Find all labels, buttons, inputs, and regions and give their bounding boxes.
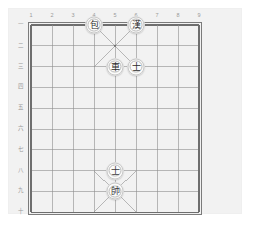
file-label-9: 9: [197, 13, 200, 19]
rank-label-6: 六: [18, 126, 24, 132]
piece-ju[interactable]: 車: [107, 58, 124, 75]
rank-label-7: 七: [18, 147, 24, 153]
file-label-1: 1: [29, 13, 32, 19]
file-label-5: 5: [113, 13, 116, 19]
piece-bao[interactable]: 包: [86, 17, 103, 34]
board-panel: 123456789一二三四五六七八九十 包漢車士士帥: [8, 8, 242, 214]
rank-label-2: 二: [18, 43, 24, 49]
rank-label-4: 四: [18, 85, 24, 91]
board-surface[interactable]: 123456789一二三四五六七八九十 包漢車士士帥: [9, 9, 243, 215]
rank-label-1: 一: [18, 22, 24, 28]
center-dot: [114, 45, 116, 47]
piece-glyph: 帥: [111, 187, 120, 196]
board-grid: [9, 9, 243, 215]
piece-glyph: 漢: [132, 21, 141, 30]
rank-label-10: 十: [18, 209, 24, 215]
piece-shi-lower[interactable]: 士: [107, 162, 124, 179]
rank-label-5: 五: [18, 105, 24, 111]
file-label-7: 7: [155, 13, 158, 19]
rank-label-9: 九: [18, 189, 24, 195]
piece-glyph: 士: [111, 166, 120, 175]
xiangqi-app: 123456789一二三四五六七八九十 包漢車士士帥: [0, 0, 253, 232]
piece-shuai[interactable]: 帥: [107, 183, 124, 200]
rank-label-3: 三: [18, 64, 24, 70]
file-label-8: 8: [176, 13, 179, 19]
file-label-3: 3: [71, 13, 74, 19]
piece-shi-upper[interactable]: 士: [128, 58, 145, 75]
rank-label-8: 八: [18, 168, 24, 174]
file-label-2: 2: [50, 13, 53, 19]
piece-glyph: 包: [90, 21, 99, 30]
piece-glyph: 車: [111, 62, 120, 71]
piece-han[interactable]: 漢: [128, 17, 145, 34]
piece-glyph: 士: [132, 62, 141, 71]
